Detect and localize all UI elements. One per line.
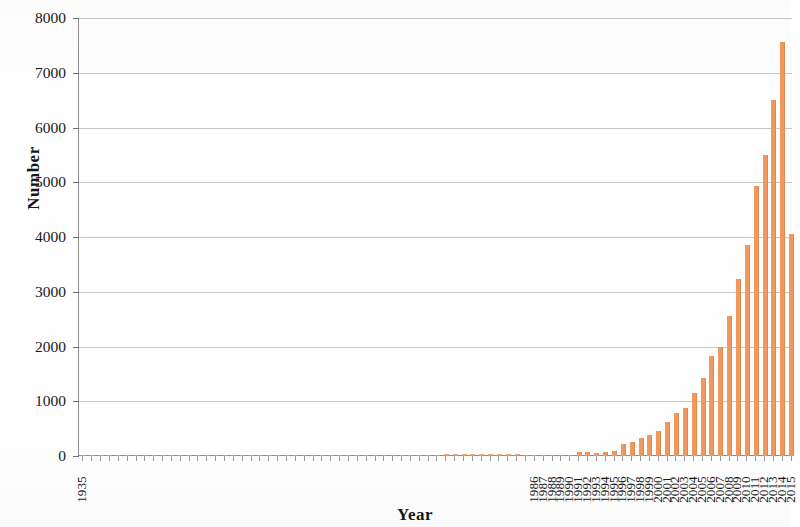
- x-tick-mark: [782, 456, 783, 461]
- bar: [656, 431, 661, 456]
- x-tick-mark: [737, 456, 738, 461]
- x-tick-mark: [348, 456, 349, 461]
- x-tick-mark: [428, 456, 429, 461]
- bar: [727, 316, 732, 456]
- x-tick-mark: [153, 456, 154, 461]
- x-tick-mark: [596, 456, 597, 461]
- x-tick-mark: [286, 456, 287, 461]
- x-tick-mark: [242, 456, 243, 461]
- x-tick-mark: [720, 456, 721, 461]
- x-tick-mark: [463, 456, 464, 461]
- x-tick-mark: [330, 456, 331, 461]
- x-tick-mark: [127, 456, 128, 461]
- x-tick-mark: [233, 456, 234, 461]
- bar: [709, 356, 714, 456]
- x-tick-mark: [295, 456, 296, 461]
- x-tick-mark: [197, 456, 198, 461]
- x-tick-mark: [454, 456, 455, 461]
- x-tick-mark: [162, 456, 163, 461]
- bar: [692, 393, 697, 456]
- x-tick-mark: [82, 456, 83, 461]
- x-tick-mark: [180, 456, 181, 461]
- x-tick-mark: [251, 456, 252, 461]
- x-tick-mark: [667, 456, 668, 461]
- x-tick-mark: [764, 456, 765, 461]
- x-tick-mark: [481, 456, 482, 461]
- x-tick-mark: [605, 456, 606, 461]
- x-tick-mark: [684, 456, 685, 461]
- bar: [754, 186, 759, 456]
- bar: [718, 347, 723, 457]
- x-tick-mark: [268, 456, 269, 461]
- bar: [683, 408, 688, 456]
- x-tick-mark: [791, 456, 792, 461]
- y-tick-label: 0: [2, 448, 66, 464]
- x-tick-mark: [118, 456, 119, 461]
- x-tick-mark: [773, 456, 774, 461]
- x-tick-mark: [587, 456, 588, 461]
- bar: [736, 279, 741, 456]
- bar: [763, 155, 768, 456]
- x-tick-mark: [658, 456, 659, 461]
- x-tick-mark: [640, 456, 641, 461]
- x-tick-mark: [410, 456, 411, 461]
- bar: [745, 245, 750, 456]
- x-tick-mark: [189, 456, 190, 461]
- x-tick-mark: [357, 456, 358, 461]
- y-tick-label: 8000: [2, 10, 66, 26]
- x-tick-mark: [516, 456, 517, 461]
- x-tick-mark: [711, 456, 712, 461]
- y-tick-label: 7000: [2, 65, 66, 81]
- y-tick-label: 1000: [2, 394, 66, 410]
- y-tick-label: 2000: [2, 339, 66, 355]
- x-tick-mark: [313, 456, 314, 461]
- x-tick-mark: [259, 456, 260, 461]
- x-tick-mark: [675, 456, 676, 461]
- x-tick-mark: [622, 456, 623, 461]
- bar: [665, 422, 670, 456]
- y-axis-tick-labels: 010002000300040005000600070008000: [0, 0, 74, 527]
- y-tick-label: 6000: [2, 120, 66, 136]
- x-tick-mark: [693, 456, 694, 461]
- x-tick-mark: [472, 456, 473, 461]
- x-tick-mark: [746, 456, 747, 461]
- x-tick-mark: [755, 456, 756, 461]
- x-tick-mark: [631, 456, 632, 461]
- x-tick-mark: [436, 456, 437, 461]
- y-tick-label: 5000: [2, 175, 66, 191]
- x-tick-mark: [321, 456, 322, 461]
- x-tick-mark: [525, 456, 526, 461]
- x-tick-mark: [445, 456, 446, 461]
- plot-area: [78, 18, 791, 456]
- bar: [771, 100, 776, 456]
- x-tick-mark: [552, 456, 553, 461]
- x-tick-mark: [366, 456, 367, 461]
- x-tick-mark: [569, 456, 570, 461]
- x-tick-mark: [702, 456, 703, 461]
- x-tick-mark: [215, 456, 216, 461]
- x-tick-mark: [392, 456, 393, 461]
- x-tick-mark: [729, 456, 730, 461]
- bar: [789, 234, 794, 456]
- x-tick-mark: [339, 456, 340, 461]
- x-axis-tick-labels: 1935198619871988198919901991199219931994…: [78, 462, 791, 506]
- x-tick-mark: [401, 456, 402, 461]
- x-tick-mark: [578, 456, 579, 461]
- x-tick-mark: [614, 456, 615, 461]
- x-tick-mark: [383, 456, 384, 461]
- x-tick-mark: [144, 456, 145, 461]
- x-tick-mark: [543, 456, 544, 461]
- x-tick-mark: [224, 456, 225, 461]
- x-axis-title: Year: [0, 505, 800, 525]
- x-tick-mark: [304, 456, 305, 461]
- x-tick-mark: [109, 456, 110, 461]
- bars-series: [79, 18, 792, 456]
- x-tick-mark: [375, 456, 376, 461]
- x-tick-mark: [100, 456, 101, 461]
- x-tick-mark: [277, 456, 278, 461]
- bar: [674, 413, 679, 456]
- x-tick-mark: [649, 456, 650, 461]
- y-tick-label: 4000: [2, 229, 66, 245]
- x-tick-mark: [534, 456, 535, 461]
